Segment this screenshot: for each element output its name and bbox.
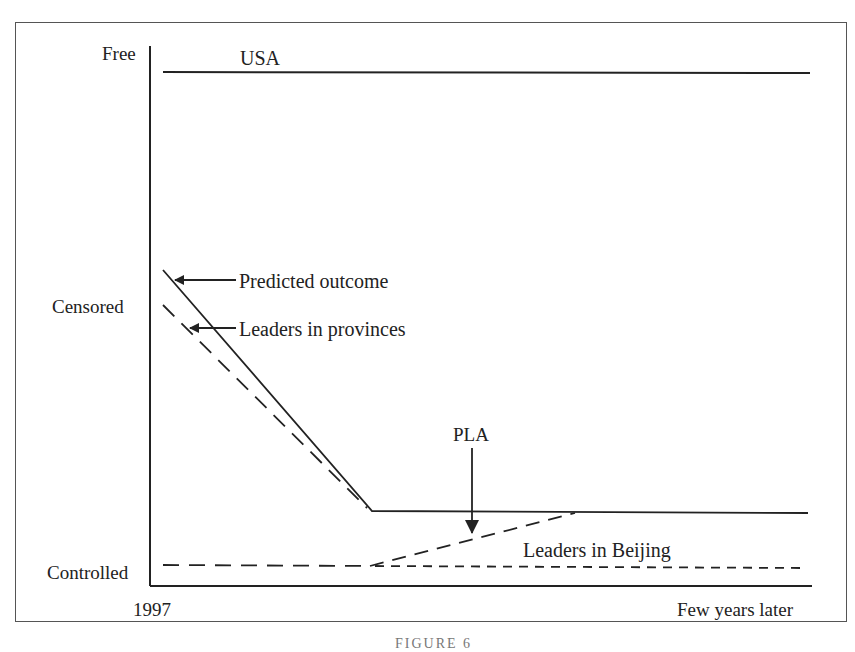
x-label-start: 1997 xyxy=(133,600,171,619)
beijing-label: Leaders in Beijing xyxy=(523,540,671,560)
usa-label: USA xyxy=(240,48,280,68)
predicted-label: Predicted outcome xyxy=(239,271,388,291)
pla-label: PLA xyxy=(453,425,489,444)
x-label-end: Few years later xyxy=(677,600,793,619)
beijing-initial-line xyxy=(163,565,370,566)
beijing-line xyxy=(375,566,802,568)
provinces-label: Leaders in provinces xyxy=(239,319,406,339)
usa-line xyxy=(163,72,810,73)
predicted-outcome-line xyxy=(163,270,808,513)
figure-caption: FIGURE 6 xyxy=(395,636,472,652)
y-label-controlled: Controlled xyxy=(47,563,128,582)
y-label-free: Free xyxy=(102,44,136,63)
y-label-censored: Censored xyxy=(52,297,124,316)
